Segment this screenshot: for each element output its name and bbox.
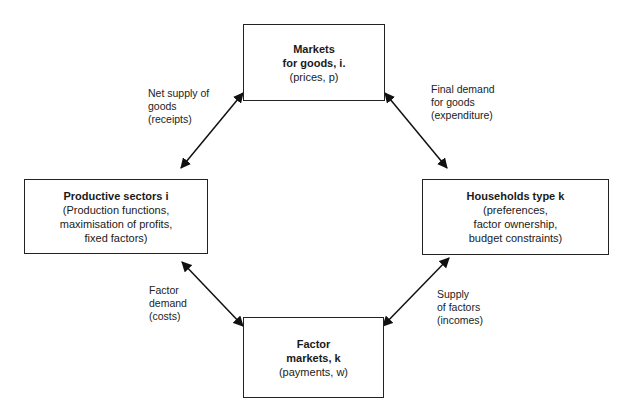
factor-demand-label: Factor demand (costs): [149, 284, 187, 323]
net-supply-line-1: Net supply of: [148, 87, 209, 100]
net-supply-line-3: (receipts): [148, 113, 209, 126]
households-box: Households type k (preferences, factor o…: [422, 179, 609, 255]
supply-factors-line-1: Supply: [437, 288, 483, 301]
factor-demand-arrow: [182, 262, 243, 326]
markets-for-goods-box: Markets for goods, i. (prices, p): [243, 24, 385, 101]
factor-markets-box: Factor markets, k (payments, w): [243, 317, 384, 398]
households-detail-2: factor ownership,: [474, 217, 558, 231]
net-supply-line-2: goods: [148, 100, 209, 113]
households-detail-1: (preferences,: [483, 203, 548, 217]
factor-markets-title-1: Factor: [297, 337, 331, 351]
productive-detail-1: (Production functions,: [63, 203, 169, 217]
factor-demand-line-2: demand: [149, 297, 187, 310]
final-demand-line-3: (expenditure): [431, 109, 495, 122]
supply-factors-line-3: (incomes): [437, 314, 483, 327]
final-demand-line-2: for goods: [431, 96, 495, 109]
factor-demand-line-1: Factor: [149, 284, 187, 297]
final-demand-line-1: Final demand: [431, 83, 495, 96]
productive-sectors-box: Productive sectors i (Production functio…: [24, 179, 208, 254]
factor-markets-title-2: markets, k: [286, 351, 340, 365]
markets-detail: (prices, p): [290, 70, 339, 84]
households-title: Households type k: [467, 189, 565, 203]
households-detail-3: budget constraints): [469, 231, 563, 245]
markets-title-2: for goods, i.: [283, 56, 346, 70]
factor-markets-detail: (payments, w): [279, 365, 348, 379]
final-demand-label: Final demand for goods (expenditure): [431, 83, 495, 122]
productive-title: Productive sectors i: [63, 189, 168, 203]
net-supply-label: Net supply of goods (receipts): [148, 87, 209, 126]
factor-demand-line-3: (costs): [149, 310, 187, 323]
productive-detail-2: maximisation of profits,: [60, 217, 172, 231]
supply-factors-line-2: of factors: [437, 301, 483, 314]
productive-detail-3: fixed factors): [85, 231, 148, 245]
markets-title-1: Markets: [293, 42, 335, 56]
supply-factors-label: Supply of factors (incomes): [437, 288, 483, 327]
